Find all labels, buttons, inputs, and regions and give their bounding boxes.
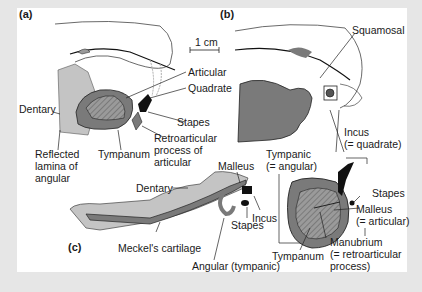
label-retroarticular-2: process of: [154, 144, 202, 156]
label-stapes-a: Stapes: [177, 116, 210, 128]
label-squamosal: Squamosal: [352, 24, 405, 36]
panel-label-a: (a): [19, 8, 32, 20]
scale-bar-label: 1 cm: [195, 36, 218, 48]
label-incus-b-2: (= quadrate): [344, 138, 402, 150]
panel-label-b: (b): [220, 8, 234, 20]
label-tympanum-a: Tympanum: [98, 148, 150, 160]
stapes-c-shape: [241, 200, 249, 206]
label-articular: Articular: [188, 66, 227, 78]
label-manubrium-3: process): [330, 260, 370, 272]
panel-a-skull: [55, 21, 175, 135]
label-manubrium-1: Manubrium: [330, 236, 383, 248]
label-quadrate: Quadrate: [188, 82, 232, 94]
label-stapes-b: Stapes: [372, 187, 405, 199]
label-reflected-2: lamina of: [35, 160, 78, 172]
stapes-inset-shape: [350, 201, 355, 206]
panel-b-skull: [235, 25, 362, 142]
label-reflected-1: Reflected: [35, 148, 79, 160]
label-tympanic-2: (= angular): [266, 160, 317, 172]
label-tympanic-1: Tympanic: [266, 148, 311, 160]
tympanum-b-shape: [296, 188, 341, 239]
label-dentary-c: Dentary: [136, 182, 173, 194]
label-dentary-a: Dentary: [19, 103, 56, 115]
quadrate-shape: [138, 94, 152, 112]
label-reflected-3: angular: [35, 172, 70, 184]
label-meckels-cartilage: Meckel's cartilage: [118, 242, 201, 254]
label-incus-b-1: Incus: [344, 126, 369, 138]
panel-c-jaw: [70, 172, 252, 230]
label-malleus-c: Malleus: [218, 160, 254, 172]
label-retroarticular-3: articular: [154, 156, 191, 168]
label-manubrium-2: (= retroarticular: [330, 248, 401, 260]
label-retroarticular-1: Retroarticular: [154, 132, 217, 144]
label-malleus-b-1: Malleus: [356, 203, 392, 215]
label-stapes-c: Stapes: [231, 219, 264, 231]
incus-inset-shape: [338, 162, 354, 196]
label-angular-c: Angular (tympanic): [192, 260, 280, 272]
panel-label-c: (c): [68, 241, 81, 253]
incus-c-shape: [242, 186, 252, 194]
label-malleus-b-2: (= articular): [356, 215, 409, 227]
dentary-b-shape: [238, 80, 312, 142]
